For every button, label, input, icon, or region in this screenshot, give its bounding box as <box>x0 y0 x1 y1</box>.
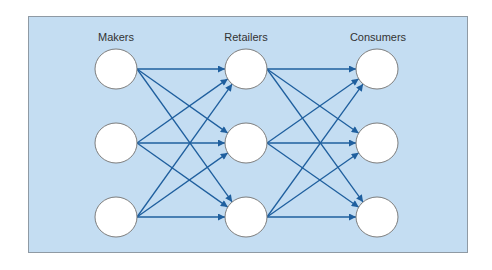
retailer-node-1 <box>225 49 267 89</box>
flow-arrow <box>267 153 359 217</box>
flow-arrow <box>267 69 359 133</box>
consumer-node-3 <box>356 197 398 237</box>
flow-arrow <box>267 84 363 217</box>
flow-arrow <box>137 84 232 217</box>
network-graph <box>0 0 492 270</box>
flow-arrow <box>267 69 363 202</box>
maker-node-1 <box>95 49 137 89</box>
retailer-node-3 <box>225 197 267 237</box>
flow-arrow <box>137 69 232 202</box>
retailer-node-2 <box>225 123 267 163</box>
maker-node-3 <box>95 197 137 237</box>
consumer-node-1 <box>356 49 398 89</box>
maker-node-2 <box>95 123 137 163</box>
flow-arrow <box>137 69 228 133</box>
consumer-node-2 <box>356 123 398 163</box>
flow-arrow <box>137 153 228 217</box>
